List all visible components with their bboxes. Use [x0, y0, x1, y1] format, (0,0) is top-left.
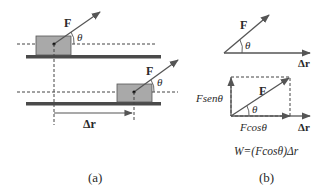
angle-arc-b-top [240, 40, 242, 53]
angle-label-b-bottom: θ [252, 103, 258, 115]
angle-label-b-top: θ [245, 39, 251, 51]
angle-arc-b-bottom [247, 106, 249, 116]
horizontal-component-label: Fcosθ [239, 121, 267, 133]
displacement-label-b-bottom: Δr [298, 121, 310, 133]
angle-arc-top [71, 32, 74, 44]
panel-a: F θ F θ Δr (a) [17, 12, 178, 185]
caption-b: (b) [259, 170, 274, 185]
ground-top [26, 55, 161, 59]
displacement-label: Δr [83, 117, 97, 131]
force-arrow-bottom [134, 60, 178, 92]
force-label-bottom: F [146, 64, 153, 78]
work-formula: W=(Fcosθ)Δr [234, 145, 299, 158]
ground-bottom [26, 102, 161, 106]
vertical-component-label: Fsenθ [195, 92, 223, 104]
force-label-b-bottom: F [259, 84, 266, 98]
angle-label-bottom: θ [157, 76, 163, 88]
angle-label-top: θ [77, 31, 83, 43]
displacement-label-b-top: Δr [298, 57, 310, 69]
caption-a: (a) [88, 170, 102, 185]
panel-b: F θ Δr F θ Fsenθ Fcosθ Δr W=(Fcosθ)Δr (b… [195, 15, 310, 185]
work-diagram: F θ F θ Δr (a) F θ Δr F [0, 0, 332, 194]
force-label-top: F [64, 16, 71, 30]
force-label-b-top: F [240, 18, 247, 32]
